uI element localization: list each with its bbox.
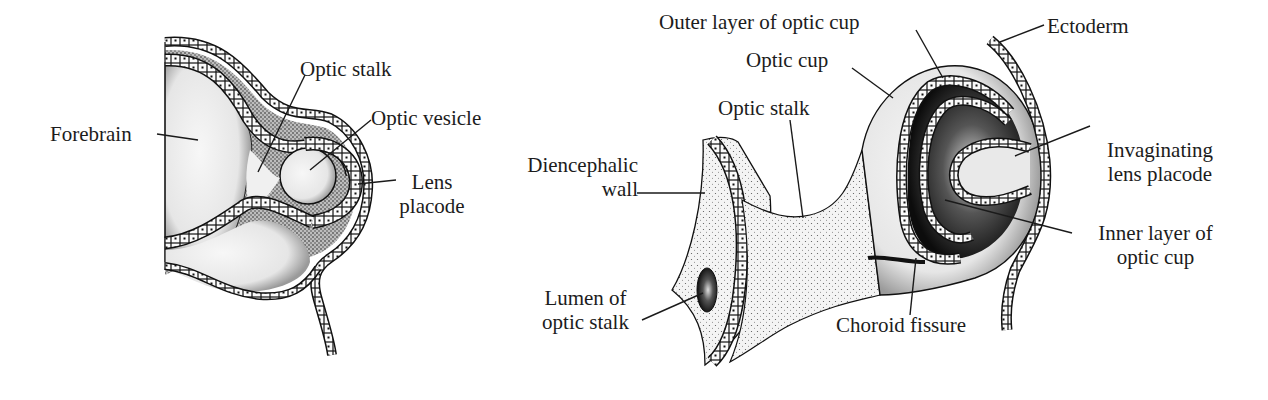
label-outer-layer-optic-cup: Outer layer of optic cup (659, 10, 860, 34)
embryonic-eye-diagram: Forebrain Optic stalk Optic vesicle Lens… (0, 0, 1268, 400)
label-diencephalic-line1: Diencephalic (520, 153, 638, 177)
label-lumen-line2: optic stalk (528, 310, 643, 334)
label-invaginating-lens-placode: Invaginating lens placode (1085, 138, 1235, 186)
label-choroid-fissure: Choroid fissure (836, 313, 966, 337)
label-optic-vesicle: Optic vesicle (371, 106, 481, 130)
label-lumen-optic-stalk: Lumen of optic stalk (528, 286, 643, 334)
label-lumen-line1: Lumen of (528, 286, 643, 310)
label-invaginating-line2: lens placode (1085, 162, 1235, 186)
left-panel-drawing (165, 42, 368, 355)
label-diencephalic-wall: Diencephalic wall (520, 153, 638, 201)
label-optic-stalk-right: Optic stalk (718, 96, 810, 120)
label-optic-cup: Optic cup (746, 48, 828, 72)
label-inner-layer-optic-cup: Inner layer of optic cup (1078, 221, 1233, 269)
label-optic-stalk-left: Optic stalk (300, 57, 392, 81)
label-lens-placode-line1: Lens (386, 170, 478, 194)
label-inner-layer-line2: optic cup (1078, 245, 1233, 269)
label-ectoderm: Ectoderm (1047, 14, 1129, 38)
label-lens-placode-line2: placode (386, 194, 478, 218)
label-forebrain: Forebrain (50, 122, 132, 146)
label-invaginating-line1: Invaginating (1085, 138, 1235, 162)
label-diencephalic-line2: wall (520, 177, 638, 201)
label-lens-placode: Lens placode (386, 170, 478, 218)
label-inner-layer-line1: Inner layer of (1078, 221, 1233, 245)
